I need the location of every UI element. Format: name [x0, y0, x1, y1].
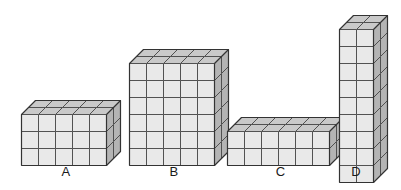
cube-block-b — [128, 48, 230, 167]
block-label-b: B — [128, 165, 220, 178]
cube-block-d — [338, 14, 389, 184]
block-label-a: A — [20, 165, 112, 178]
cube-block-c — [226, 116, 345, 167]
cube-block-a — [20, 99, 122, 167]
cube-stack-figure: ABCD — [0, 0, 401, 190]
block-label-c: C — [226, 165, 335, 178]
block-label-d: D — [327, 165, 385, 178]
